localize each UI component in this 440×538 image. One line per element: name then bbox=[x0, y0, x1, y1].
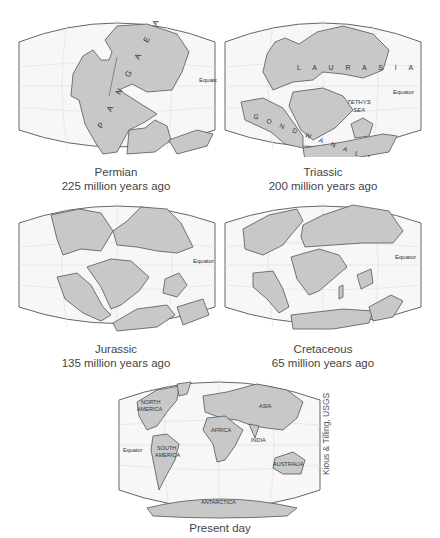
credit-text: Kious & Tilling, USGS bbox=[321, 393, 331, 475]
period-name: Cretaceous bbox=[223, 342, 423, 356]
label-south-america-2: AMERICA bbox=[155, 452, 180, 458]
label-sea: SEA bbox=[353, 107, 365, 113]
label-north-america-2: AMERICA bbox=[137, 406, 162, 412]
period-age: 65 million years ago bbox=[223, 356, 423, 370]
map-triassic: L A U R A S I A G O N D W A N A L A N D … bbox=[223, 12, 423, 157]
landmass-madagascar bbox=[339, 285, 343, 299]
caption-jurassic: Jurassic 135 million years ago bbox=[16, 342, 216, 370]
period-age: 200 million years ago bbox=[223, 179, 423, 193]
caption-triassic: Triassic 200 million years ago bbox=[223, 165, 423, 193]
label-india: INDIA bbox=[251, 437, 266, 443]
label-equator: Equator bbox=[395, 254, 416, 260]
label-equator: Equator bbox=[199, 77, 217, 83]
period-name: Present day bbox=[120, 521, 320, 535]
map-cretaceous: Equator bbox=[223, 195, 423, 335]
label-south-america-1: SOUTH bbox=[157, 445, 176, 451]
label-africa: AFRICA bbox=[211, 427, 232, 433]
caption-cretaceous: Cretaceous 65 million years ago bbox=[223, 342, 423, 370]
map-jurassic: Equator bbox=[17, 195, 217, 335]
label-tethys: TETHYS bbox=[347, 99, 371, 105]
period-name: Jurassic bbox=[16, 342, 216, 356]
label-laurasia: L A U R A S I A bbox=[297, 64, 418, 71]
label-north-america-1: NORTH bbox=[141, 399, 160, 405]
label-australia: AUSTRALIA bbox=[273, 461, 304, 467]
label-antarctica: ANTARCTICA bbox=[201, 499, 236, 505]
period-age: 225 million years ago bbox=[16, 179, 216, 193]
label-asia: ASIA bbox=[259, 403, 272, 409]
caption-present-day: Present day bbox=[120, 521, 320, 535]
map-permian: P A N G A E A Equator bbox=[17, 12, 217, 157]
label-equator: Equator bbox=[123, 447, 142, 453]
label-equator: Equator bbox=[393, 89, 414, 95]
period-name: Permian bbox=[16, 165, 216, 179]
caption-permian: Permian 225 million years ago bbox=[16, 165, 216, 193]
label-equator: Equator bbox=[193, 258, 214, 264]
map-present-day: NORTH AMERICA SOUTH AMERICA AFRICA ASIA … bbox=[117, 370, 322, 520]
period-age: 135 million years ago bbox=[16, 356, 216, 370]
period-name: Triassic bbox=[223, 165, 423, 179]
